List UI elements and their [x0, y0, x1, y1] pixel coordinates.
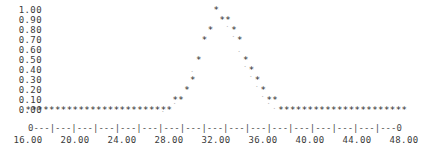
data-point: *	[102, 106, 107, 115]
data-point: *	[284, 106, 289, 115]
x-tick-label: 24.00	[105, 136, 139, 145]
data-point: .	[249, 71, 253, 80]
data-point: *	[308, 106, 313, 115]
data-point: *	[108, 106, 113, 115]
y-tick-label: 0.40	[8, 66, 42, 75]
data-point: *	[343, 106, 348, 115]
x-tick-label: 44.00	[340, 136, 374, 145]
data-point: *	[31, 106, 36, 115]
data-point: *	[331, 106, 336, 115]
data-point: *	[384, 106, 389, 115]
data-point: *	[396, 106, 401, 115]
x-tick-label: 20.00	[58, 136, 92, 145]
data-point: *	[90, 106, 95, 115]
x-tick-label: 36.00	[246, 136, 280, 145]
data-point: *	[78, 106, 83, 115]
data-point: .	[178, 91, 182, 100]
data-point: .	[202, 31, 206, 40]
data-point: *	[73, 106, 78, 115]
y-tick-label: 0.20	[8, 86, 42, 95]
data-point: *	[114, 106, 119, 115]
data-point: *	[55, 106, 60, 115]
data-point: *	[149, 106, 154, 115]
data-point: *	[125, 106, 130, 115]
x-tick-label: 40.00	[293, 136, 327, 145]
data-point: .	[196, 51, 200, 60]
data-point: .	[261, 91, 265, 100]
data-point: .	[255, 81, 259, 90]
data-point: *	[49, 106, 54, 115]
data-point: *	[349, 106, 354, 115]
data-point: *	[61, 106, 66, 115]
data-point: .	[190, 66, 194, 75]
data-point: *	[290, 106, 295, 115]
data-point: .	[208, 21, 212, 30]
y-tick-label: 0.80	[8, 26, 42, 35]
data-point: *	[120, 106, 125, 115]
x-tick-label: 48.00	[387, 136, 421, 145]
data-point: *	[137, 106, 142, 115]
data-point: .	[161, 106, 165, 115]
data-point: .	[172, 98, 176, 107]
data-point: *	[155, 106, 160, 115]
data-point: *	[390, 106, 395, 115]
data-point: .	[272, 103, 276, 112]
data-point: .	[231, 31, 235, 40]
data-point: *	[84, 106, 89, 115]
data-point: *	[237, 36, 242, 45]
data-point: *	[143, 106, 148, 115]
x-tick-label: 32.00	[199, 136, 233, 145]
x-axis-line: 0---|---|---|---|---|---|---|---|---|---…	[28, 124, 402, 133]
x-tick-label: 16.00	[11, 136, 45, 145]
data-point: *	[355, 106, 360, 115]
y-tick-label: 0.30	[8, 76, 42, 85]
x-tick-label: 28.00	[152, 136, 186, 145]
data-point: *	[360, 106, 365, 115]
data-point: *	[372, 106, 377, 115]
y-tick-label: 0.50	[8, 56, 42, 65]
data-point: .	[184, 81, 188, 90]
data-point: *	[43, 106, 48, 115]
data-point: .	[225, 21, 229, 30]
data-point: *	[278, 106, 283, 115]
data-point: .	[219, 11, 223, 20]
data-point: *	[96, 106, 101, 115]
data-point: *	[302, 106, 307, 115]
data-point: *	[337, 106, 342, 115]
data-point: *	[378, 106, 383, 115]
data-point: .	[266, 98, 270, 107]
data-point: *	[214, 6, 219, 15]
y-tick-label: 0.60	[8, 46, 42, 55]
y-tick-label: 1.00	[8, 6, 42, 15]
y-tick-label: 0.70	[8, 36, 42, 45]
data-point: *	[67, 106, 72, 115]
data-point: *	[190, 76, 195, 85]
data-point: *	[366, 106, 371, 115]
data-point: *	[319, 106, 324, 115]
y-tick-label: 0.90	[8, 16, 42, 25]
data-point: *	[37, 106, 42, 115]
data-point: *	[325, 106, 330, 115]
data-point: *	[26, 106, 31, 115]
y-tick-label: 0.10	[8, 96, 42, 105]
data-point: *	[296, 106, 301, 115]
data-point: *	[402, 106, 407, 115]
data-point: *	[131, 106, 136, 115]
data-point: .	[167, 101, 171, 110]
data-point: .	[237, 46, 241, 55]
data-point: *	[313, 106, 318, 115]
data-point: .	[243, 61, 247, 70]
